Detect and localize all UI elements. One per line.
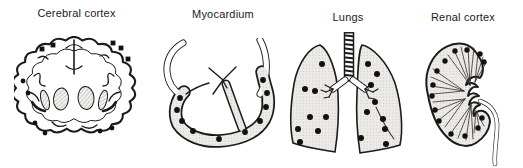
figure-canvas: Cerebral cortex Myocardium Lungs Renal c…: [0, 0, 523, 168]
panel-lungs: Lungs: [283, 0, 413, 168]
renal-cortex-illustration: [420, 35, 520, 167]
panel-cerebral-cortex: Cerebral cortex: [14, 0, 139, 168]
renal-cortex-label: Renal cortex: [403, 11, 523, 23]
panel-renal-cortex: Renal cortex: [403, 0, 523, 168]
cerebral-cortex-illustration: [14, 36, 139, 148]
panel-myocardium: Myocardium: [160, 0, 280, 168]
myocardium-illustration: [160, 38, 280, 153]
lungs-label: Lungs: [283, 11, 413, 23]
lungs-illustration: [283, 32, 413, 159]
cerebral-cortex-label: Cerebral cortex: [14, 7, 139, 19]
myocardium-label: Myocardium: [163, 8, 283, 20]
